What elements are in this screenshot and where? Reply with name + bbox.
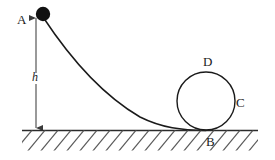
ball [36, 7, 50, 21]
physics-diagram-figure: A h B C D [0, 0, 275, 160]
diagram-canvas [0, 0, 275, 160]
point-label-d: D [203, 55, 212, 68]
loop-circle [177, 72, 235, 130]
point-label-b: B [206, 135, 215, 148]
point-label-c: C [236, 96, 245, 109]
point-label-a: A [17, 13, 26, 26]
height-label-h: h [32, 71, 38, 83]
ground-hatching [14, 129, 267, 152]
ramp-curve [43, 17, 206, 130]
